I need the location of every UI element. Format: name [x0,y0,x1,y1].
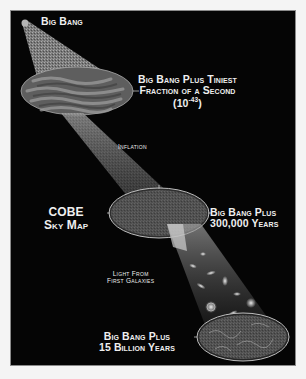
cosmic-timeline-illustration [11,11,296,366]
label-300000-years: Big Bang Plus 300,000 Years [210,207,278,229]
label-tiniest-fraction: Big Bang Plus Tiniest Fraction of a Seco… [138,74,237,109]
label-cobe-sky-map: COBE Sky Map [44,206,88,231]
label-inflation: Inflation [118,144,147,151]
label-first-galaxies: Light From First Galaxies [107,271,154,285]
label-big-bang: Big Bang [41,16,83,27]
big-bang-point [22,20,29,27]
diagram-panel: Big Bang Big Bang Plus Tiniest Fraction … [10,10,296,366]
label-15-billion-years: Big Bang Plus 15 Billion Years [99,331,175,353]
